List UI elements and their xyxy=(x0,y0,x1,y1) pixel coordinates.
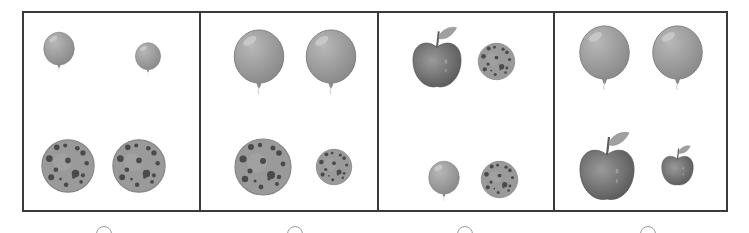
large-cookie-icon xyxy=(40,137,96,195)
large-cookie-icon xyxy=(233,137,293,197)
large-cookie-icon xyxy=(111,137,167,195)
large-balloon-icon xyxy=(577,24,632,92)
large-apple-icon xyxy=(577,130,637,204)
option-a-panel[interactable] xyxy=(24,13,201,210)
large-balloon-icon xyxy=(42,23,76,81)
small-balloon-icon xyxy=(427,157,461,205)
large-balloon-icon xyxy=(650,24,705,92)
small-cookie-icon xyxy=(480,159,519,200)
large-apple-icon xyxy=(410,26,464,90)
large-balloon-icon xyxy=(303,29,359,95)
small-cookie-icon xyxy=(477,41,516,82)
small-balloon-icon xyxy=(134,39,162,79)
option-b-panel[interactable] xyxy=(201,13,379,210)
small-cookie-icon xyxy=(315,148,353,186)
option-a-radio[interactable] xyxy=(96,226,112,233)
option-d-panel[interactable] xyxy=(555,13,726,210)
small-apple-icon xyxy=(660,145,695,187)
option-b-radio[interactable] xyxy=(287,226,303,233)
large-balloon-icon xyxy=(231,29,287,95)
option-d-radio[interactable] xyxy=(640,226,656,233)
option-c-radio[interactable] xyxy=(457,226,473,233)
option-c-panel[interactable] xyxy=(379,13,555,210)
options-grid xyxy=(22,11,728,212)
